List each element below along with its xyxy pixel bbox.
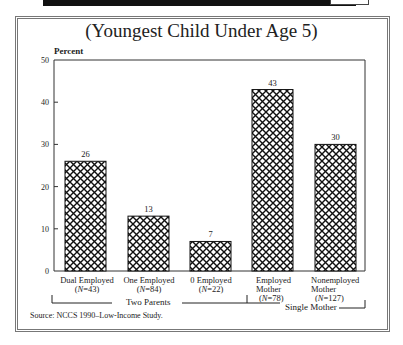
bar-value-label: 26 [81,149,90,159]
y-tick-label: 50 [41,56,49,65]
y-ticks: 01020304050 [41,56,58,276]
bar [252,90,293,271]
source-note: Source: NCCS 1990–Low-Income Study. [30,311,163,320]
two-parents-bracket-left [52,295,112,303]
y-tick-label: 30 [41,140,49,149]
category-label-employed-mother: Employed Mother (N=78) [256,276,306,303]
group-label-two-parents: Two Parents [124,297,173,307]
category-label-zero-employed: 0 Employed (N=22) [184,276,238,294]
category-label-one-employed: One Employed (N=84) [122,276,176,294]
bar-value-label: 43 [268,78,277,88]
bar-value-label: 13 [144,204,153,214]
bars: 261374330 [65,78,356,271]
bar [190,241,231,271]
category-label-nonemployed-mother: Nonemployed Mother (N=127) [311,276,367,303]
y-tick-label: 20 [41,183,49,192]
bar [315,144,356,271]
group-label-single-mother: Single Mother [283,302,339,312]
bar [128,216,169,271]
y-tick-label: 40 [41,98,49,107]
y-tick-label: 10 [41,225,49,234]
bar-value-label: 30 [331,132,340,142]
category-label-dual-employed: Dual Employed (N=43) [60,276,114,294]
y-tick-label: 0 [45,267,49,276]
bar-value-label: 7 [208,229,212,239]
bar [65,161,106,271]
